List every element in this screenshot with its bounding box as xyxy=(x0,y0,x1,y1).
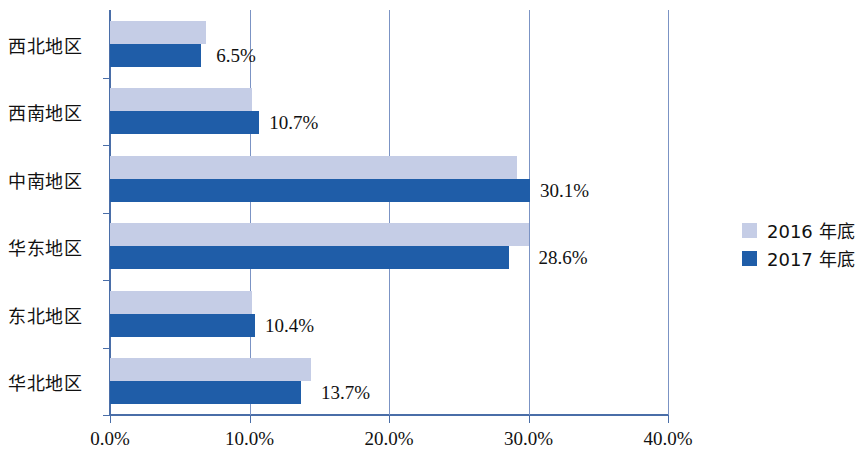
category-label-0: 西北地区 xyxy=(0,32,96,58)
x-axis-tick xyxy=(668,415,669,423)
gridline xyxy=(250,10,251,415)
legend: 2016 年底2017 年底 xyxy=(742,216,859,272)
y-axis-tick xyxy=(103,280,110,281)
bar-2017 xyxy=(110,381,301,404)
y-axis-tick xyxy=(103,213,110,214)
bar-2016 xyxy=(110,358,311,381)
x-axis-tick xyxy=(110,415,111,423)
y-axis-tick xyxy=(103,78,110,79)
data-label: 30.1% xyxy=(540,180,589,202)
data-label: 13.7% xyxy=(321,382,370,404)
bar-2017 xyxy=(110,314,255,337)
category-label-5: 华北地区 xyxy=(0,369,96,395)
category-label-4: 东北地区 xyxy=(0,302,96,328)
category-label-2: 中南地区 xyxy=(0,167,96,193)
legend-label: 2017 年底 xyxy=(767,245,855,271)
bar-2017 xyxy=(110,111,259,134)
legend-swatch-icon xyxy=(742,251,757,266)
bar-2016 xyxy=(110,88,252,111)
x-axis-tick-label: 40.0% xyxy=(643,428,692,450)
y-axis-tick xyxy=(103,415,110,416)
legend-item[interactable]: 2017 年底 xyxy=(742,244,859,272)
bar-2016 xyxy=(110,156,517,179)
data-label: 6.5% xyxy=(216,45,256,67)
x-axis-tick xyxy=(529,415,530,423)
bar-2017 xyxy=(110,246,509,269)
gridline xyxy=(389,10,390,415)
bar-2016 xyxy=(110,223,529,246)
data-label: 10.7% xyxy=(269,112,318,134)
bar-2017 xyxy=(110,44,201,67)
x-axis-tick-label: 10.0% xyxy=(225,428,274,450)
x-axis-tick xyxy=(250,415,251,423)
data-label: 10.4% xyxy=(265,315,314,337)
bar-2016 xyxy=(110,21,206,44)
gridline xyxy=(668,10,669,415)
legend-item[interactable]: 2016 年底 xyxy=(742,216,859,244)
x-axis-tick-label: 0.0% xyxy=(90,428,130,450)
y-axis-tick xyxy=(103,348,110,349)
bar-2016 xyxy=(110,291,252,314)
y-axis-tick xyxy=(103,145,110,146)
bar-chart: 西北地区西南地区中南地区华东地区东北地区华北地区 6.5%10.7%30.1%2… xyxy=(0,0,859,452)
legend-swatch-icon xyxy=(742,223,757,238)
category-axis-labels: 西北地区西南地区中南地区华东地区东北地区华北地区 xyxy=(0,10,100,415)
x-axis-tick-label: 20.0% xyxy=(364,428,413,450)
category-label-1: 西南地区 xyxy=(0,99,96,125)
plot-area: 6.5%10.7%30.1%28.6%10.4%13.7% 0.0%10.0%2… xyxy=(110,10,668,415)
x-axis-tick xyxy=(389,415,390,423)
legend-label: 2016 年底 xyxy=(767,217,855,243)
x-axis-tick-label: 30.0% xyxy=(504,428,553,450)
gridline xyxy=(529,10,530,415)
category-label-3: 华东地区 xyxy=(0,234,96,260)
data-label: 28.6% xyxy=(539,247,588,269)
bar-2017 xyxy=(110,179,530,202)
